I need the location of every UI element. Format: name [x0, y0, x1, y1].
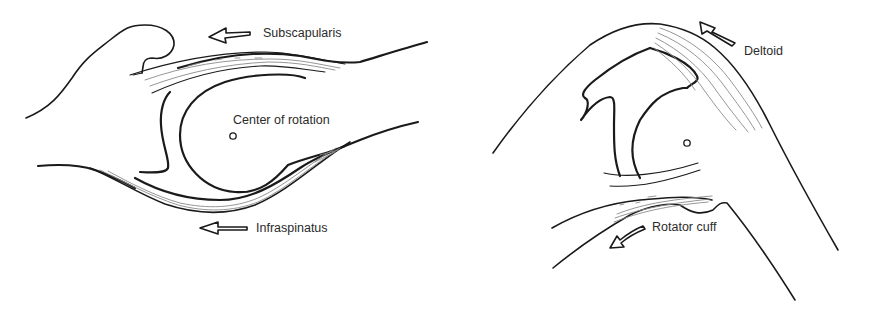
rotator-cuff-label: Rotator cuff: [652, 221, 716, 234]
scapula-outline: [26, 25, 174, 118]
infraspinatus-band-outer: [90, 142, 350, 212]
rotator-cuff-fibers: [614, 196, 712, 222]
infraspinatus-label: Infraspinatus: [256, 222, 328, 235]
subscapularis-label: Subscapularis: [263, 27, 342, 40]
center-of-rotation-marker: [230, 133, 236, 139]
humeral-head: [180, 75, 418, 193]
joint-line-lower: [610, 170, 700, 186]
acromion-process: [633, 48, 698, 178]
center-of-rotation-marker-right: [684, 140, 690, 146]
deltoid-label: Deltoid: [744, 45, 783, 58]
glenoid-rim: [140, 92, 170, 173]
right-panel-drawing: [493, 22, 838, 300]
center-of-rotation-label: Center of rotation: [233, 114, 330, 127]
humerus-lower-contour: [553, 203, 795, 300]
subscapularis-arrow-icon: [209, 28, 250, 43]
infraspinatus-arrow-icon: [200, 222, 247, 234]
left-panel-drawing: [26, 25, 427, 234]
deltoid-arrow-icon: [700, 22, 735, 46]
coracoid-hook: [581, 97, 620, 176]
rotator-cuff-arrow-icon: [610, 226, 645, 248]
acromion-arc: [583, 48, 650, 98]
scapula-lower-edge: [38, 165, 135, 188]
